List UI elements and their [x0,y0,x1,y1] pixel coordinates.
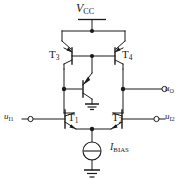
label-vcc: VCC [76,2,94,14]
vcc-rail [62,29,125,49]
transistor-t3 [64,47,92,69]
current-source-ibias [83,142,101,170]
transistor-t2 [92,110,165,129]
node-output [121,87,125,91]
label-t1: T1 [68,112,78,123]
input-2-terminal [154,116,159,121]
schematic-canvas [0,0,183,185]
output-node [121,69,167,113]
ground-symbol-bias-source [84,170,100,177]
transistor-mirror-buffer [83,73,92,104]
label-ibias: IBIAS [110,142,129,152]
label-input-2: uI2 [165,112,175,121]
node-left-internal [62,87,66,91]
label-output: uO [165,84,174,93]
label-input-1: uI1 [4,112,14,121]
label-t3: T3 [49,49,59,60]
circuit-schematic: VCC T3 T4 T1 T2 IBIAS uI1 uI2 uO [0,0,183,185]
ground-symbol-mirror-buffer [85,104,99,110]
tail-node [90,127,94,142]
left-internal-node [62,69,82,113]
node-vcc-junction [90,29,94,33]
node-mirror-base [90,54,94,58]
transistor-t1 [22,110,92,129]
label-t4: T4 [122,49,132,60]
transistor-t4 [92,47,123,69]
mirror-base-node [90,54,94,73]
label-t2: T2 [112,112,122,123]
input-1-terminal [28,116,33,121]
